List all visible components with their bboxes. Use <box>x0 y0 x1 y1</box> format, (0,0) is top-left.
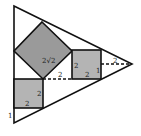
right-square-right-label: 1 <box>96 67 100 75</box>
bottom-gap-label: 1 <box>8 112 12 120</box>
dashed-right-label: 2 <box>113 57 117 65</box>
right-square-bottom-label: 2 <box>85 71 89 79</box>
geometry-diagram: 2√2 2 2 1 2 2 2 2 1 <box>0 0 141 136</box>
left-square-bottom-label: 2 <box>25 100 29 108</box>
diamond-side-label: 2√2 <box>42 57 55 65</box>
right-square-left-label: 2 <box>74 62 78 70</box>
dashed-middle-label: 2 <box>58 71 62 79</box>
left-square-right-label: 2 <box>37 90 41 98</box>
